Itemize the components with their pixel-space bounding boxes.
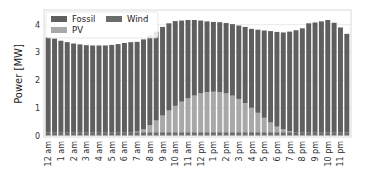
bar-segment-wind xyxy=(306,132,311,135)
bar-segment-fossil xyxy=(185,20,190,98)
bar-segment-wind xyxy=(192,132,197,135)
x-tick-label: 11 pm xyxy=(336,141,345,167)
bar-segment-pv xyxy=(287,131,292,132)
stacked-bar-chart: 01234 12 am1 am2 am3 am4 am5 am6 am7 am8… xyxy=(0,0,368,173)
legend-label-fossil: Fossil xyxy=(72,14,95,24)
bar-segment-pv xyxy=(249,108,254,132)
bar-segment-fossil xyxy=(249,29,254,108)
bar-segment-fossil xyxy=(300,28,305,132)
bar-segment-fossil xyxy=(135,42,140,132)
bar-segment-wind xyxy=(84,132,89,135)
bar-segment-pv xyxy=(205,92,210,132)
bar-segment-pv xyxy=(198,93,203,132)
x-tick-label: 8 am xyxy=(146,141,155,162)
bar-segment-wind xyxy=(179,132,184,135)
bar-segment-wind xyxy=(262,132,267,135)
x-tick-label: 10 am xyxy=(171,141,180,167)
y-tick-label: 3 xyxy=(35,48,40,57)
bar-segment-fossil xyxy=(236,26,241,99)
bar-segment-pv xyxy=(230,96,235,133)
bar-segment-wind xyxy=(97,132,102,135)
bar-segment-wind xyxy=(211,132,216,135)
bar-segment-fossil xyxy=(52,39,57,133)
bar-segment-pv xyxy=(274,127,279,133)
x-tick-label: 12 pm xyxy=(197,141,206,167)
bar-segment-pv xyxy=(281,129,286,132)
legend-swatch-wind xyxy=(106,16,122,22)
x-tick-label: 9 pm xyxy=(311,141,320,162)
x-tick-label: 5 am xyxy=(108,141,117,162)
bar-segment-fossil xyxy=(166,23,171,110)
bar-segment-fossil xyxy=(325,20,330,132)
bar-segment-fossil xyxy=(262,31,267,118)
x-tick-label: 2 pm xyxy=(222,141,231,162)
x-tick-label: 7 am xyxy=(133,141,142,162)
bar-segment-fossil xyxy=(287,32,292,132)
bar-segment-fossil xyxy=(122,43,127,132)
legend-swatch-fossil xyxy=(51,16,67,22)
bar-segment-wind xyxy=(249,132,254,135)
bar-segment-fossil xyxy=(230,24,235,95)
bar-segment-wind xyxy=(103,132,108,135)
bar-segment-fossil xyxy=(90,45,95,132)
bar-segment-pv xyxy=(268,122,273,132)
bar-segment-fossil xyxy=(224,23,229,93)
x-tick-label: 3 pm xyxy=(235,141,244,162)
bar-segment-wind xyxy=(166,132,171,135)
bar-segment-wind xyxy=(173,132,178,135)
bar-segment-fossil xyxy=(84,45,89,132)
bar-segment-wind xyxy=(160,132,165,135)
bar-segment-pv xyxy=(236,99,241,132)
bar-segment-fossil xyxy=(198,21,203,94)
bar-segment-fossil xyxy=(128,42,133,132)
bar-segment-wind xyxy=(185,132,190,135)
bar-segment-fossil xyxy=(46,37,51,132)
bar-segment-wind xyxy=(230,132,235,135)
bar-segment-fossil xyxy=(71,44,76,133)
bar-segment-wind xyxy=(147,132,152,135)
bar-segment-pv xyxy=(262,118,267,132)
bar-segment-wind xyxy=(287,132,292,135)
bar-segment-fossil xyxy=(58,41,63,132)
y-axis-label: Power [MW] xyxy=(13,44,24,104)
x-axis-ticks: 12 am1 am2 am3 am4 am5 am6 am7 am8 am9 a… xyxy=(44,141,345,167)
bar-segment-wind xyxy=(224,132,229,135)
bar-segment-pv xyxy=(217,92,222,132)
legend-label-wind: Wind xyxy=(127,14,148,24)
bar-segment-fossil xyxy=(173,21,178,106)
x-tick-label: 9 am xyxy=(159,141,168,162)
x-tick-label: 1 am xyxy=(57,141,66,162)
y-tick-label: 4 xyxy=(35,21,40,30)
x-tick-label: 1 pm xyxy=(209,141,218,162)
bar-segment-wind xyxy=(274,132,279,135)
bar-segment-pv xyxy=(147,125,152,132)
x-tick-label: 11 am xyxy=(184,141,193,167)
bar-segment-fossil xyxy=(179,21,184,102)
x-tick-label: 4 am xyxy=(95,141,104,162)
bar-segment-wind xyxy=(325,132,330,135)
bar-segment-wind xyxy=(281,132,286,135)
bar-segment-pv xyxy=(192,96,197,133)
bar-segment-fossil xyxy=(192,20,197,96)
bar-segment-fossil xyxy=(268,31,273,122)
bar-segment-fossil xyxy=(109,45,114,132)
bar-segment-wind xyxy=(141,132,146,135)
bar-segment-pv xyxy=(173,106,178,132)
bar-segment-fossil xyxy=(255,30,260,113)
bar-segment-pv xyxy=(135,132,140,133)
bar-segment-fossil xyxy=(65,42,70,132)
bar-segment-wind xyxy=(135,132,140,135)
bar-segment-fossil xyxy=(243,27,248,103)
bar-segment-wind xyxy=(109,132,114,135)
bar-segment-wind xyxy=(154,132,159,135)
bar-segment-wind xyxy=(243,132,248,135)
bar-segment-fossil xyxy=(313,22,318,132)
y-tick-label: 0 xyxy=(35,132,40,141)
bar-segment-wind xyxy=(58,132,63,135)
bar-segment-fossil xyxy=(211,22,216,92)
bar-segment-wind xyxy=(65,132,70,135)
bar-segment-pv xyxy=(160,116,165,133)
legend-label-pv: PV xyxy=(72,25,83,35)
bar-segment-fossil xyxy=(294,30,299,132)
bar-segment-wind xyxy=(236,132,241,135)
